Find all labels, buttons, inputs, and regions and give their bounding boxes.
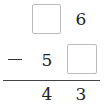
subtrahend-tens-digit: 5 — [40, 52, 54, 69]
subtrahend-ones-blank-box[interactable] — [67, 44, 97, 74]
result-rule-line — [3, 80, 100, 81]
minuend-tens-blank-box[interactable] — [32, 4, 61, 34]
result-ones-digit: 3 — [74, 86, 88, 103]
minuend-ones-digit: 6 — [74, 11, 88, 28]
result-tens-digit: 4 — [40, 86, 54, 103]
minus-sign — [8, 59, 22, 60]
